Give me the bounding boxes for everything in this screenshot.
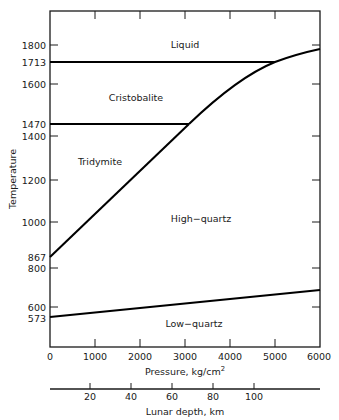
right-axis-ticks [312, 45, 320, 307]
xtick-label-6000: 6000 [307, 351, 331, 362]
lunar-tick-label-100: 100 [245, 391, 263, 402]
x-axis-title-superscript: 2 [221, 365, 225, 373]
region-label-high-quartz: High−quartz [171, 213, 231, 224]
boundary-high-quartz-melting-curve [189, 49, 320, 124]
bottom-axis-ticks [95, 339, 275, 347]
lunar-tick-label-40: 40 [125, 391, 137, 402]
region-label-tridymite: Tridymite [77, 156, 122, 167]
xtick-label-4000: 4000 [218, 351, 242, 362]
boundary-low-high-quartz-inversion [50, 290, 320, 317]
lunar-tick-label-80: 80 [207, 391, 219, 402]
lunar-depth-axis-ticks [90, 383, 254, 389]
y-axis-title: Temperature [7, 149, 18, 210]
x-axis-title: Pressure, kg/cm2 [145, 365, 225, 377]
boundary-tridymite-high-quartz [50, 124, 189, 257]
region-label-liquid: Liquid [171, 39, 200, 50]
ytick-label-1400: 1400 [22, 131, 46, 142]
phase-diagram-svg: 1800 1713 1600 1470 1400 1200 1000 867 8… [0, 0, 339, 420]
ytick-label-1600: 1600 [22, 79, 46, 90]
ytick-label-600: 600 [28, 302, 46, 313]
phase-diagram-figure: 1800 1713 1600 1470 1400 1200 1000 867 8… [0, 0, 339, 420]
xtick-label-5000: 5000 [263, 351, 287, 362]
lunar-tick-label-20: 20 [84, 391, 96, 402]
xtick-label-3000: 3000 [173, 351, 197, 362]
ytick-label-1800: 1800 [22, 40, 46, 51]
x-axis-title-main: Pressure, kg/cm [145, 366, 221, 377]
ytick-label-867: 867 [28, 252, 46, 263]
region-label-cristobalite: Cristobalite [109, 92, 164, 103]
ytick-label-1000: 1000 [22, 217, 46, 228]
lunar-depth-axis-title: Lunar depth, km [146, 406, 224, 417]
region-label-low-quartz: Low−quartz [165, 318, 222, 329]
ytick-label-800: 800 [28, 263, 46, 274]
ytick-label-573: 573 [28, 313, 46, 324]
xtick-label-2000: 2000 [128, 351, 152, 362]
ytick-label-1470: 1470 [22, 119, 46, 130]
top-axis-ticks [95, 11, 275, 19]
xtick-label-1000: 1000 [83, 351, 107, 362]
ytick-label-1713: 1713 [22, 57, 46, 68]
xtick-label-0: 0 [47, 351, 53, 362]
ytick-label-1200: 1200 [22, 175, 46, 186]
lunar-tick-label-60: 60 [166, 391, 178, 402]
left-axis-ticks [50, 45, 58, 307]
